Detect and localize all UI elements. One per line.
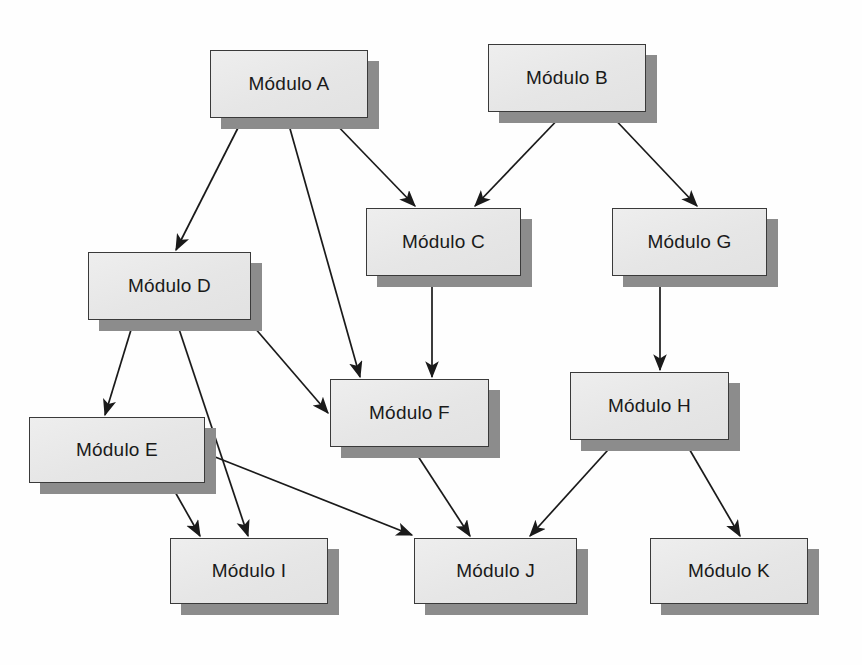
node-f[interactable]: Módulo F xyxy=(330,379,489,447)
node-label-g: Módulo G xyxy=(648,231,732,253)
node-label-j: Módulo J xyxy=(456,560,535,582)
edge-b-to-c xyxy=(475,112,565,206)
node-a[interactable]: Módulo A xyxy=(210,50,368,118)
edge-h-to-j xyxy=(530,440,617,536)
edge-a-to-c xyxy=(330,118,415,206)
node-e[interactable]: Módulo E xyxy=(29,417,205,483)
node-i[interactable]: Módulo I xyxy=(170,538,328,604)
node-label-a: Módulo A xyxy=(249,73,330,95)
edge-b-to-g xyxy=(608,112,697,206)
edge-h-to-k xyxy=(684,440,740,536)
node-label-d: Módulo D xyxy=(128,275,211,297)
edge-d-to-e xyxy=(105,320,134,415)
node-g[interactable]: Módulo G xyxy=(612,208,767,276)
node-label-h: Módulo H xyxy=(608,395,691,417)
edge-a-to-f xyxy=(287,118,360,377)
node-label-b: Módulo B xyxy=(526,67,608,89)
node-b[interactable]: Módulo B xyxy=(488,44,646,112)
edge-f-to-j xyxy=(412,447,470,536)
node-c[interactable]: Módulo C xyxy=(366,208,521,276)
node-label-c: Módulo C xyxy=(402,231,485,253)
node-label-i: Módulo I xyxy=(212,560,286,582)
node-label-f: Módulo F xyxy=(369,402,450,424)
edge-e-to-j xyxy=(205,453,412,535)
node-h[interactable]: Módulo H xyxy=(570,372,729,440)
edge-a-to-d xyxy=(176,118,243,250)
node-d[interactable]: Módulo D xyxy=(88,252,251,320)
node-j[interactable]: Módulo J xyxy=(414,538,577,604)
module-structure-diagram: Módulo AMódulo BMódulo CMódulo GMódulo D… xyxy=(0,0,862,665)
edge-d-to-f xyxy=(248,320,328,413)
node-k[interactable]: Módulo K xyxy=(650,538,808,604)
node-label-e: Módulo E xyxy=(76,439,158,461)
node-label-k: Módulo K xyxy=(688,560,770,582)
